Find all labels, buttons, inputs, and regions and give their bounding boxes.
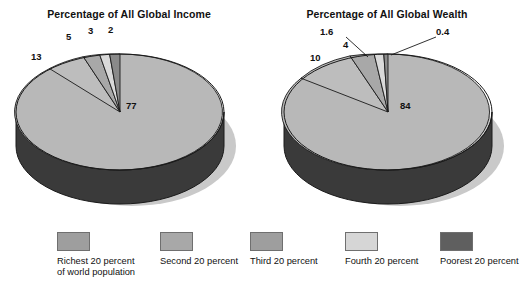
pie-wealth-svg xyxy=(258,24,516,232)
slice-label-fourth: 1.6 xyxy=(320,26,333,37)
slice-label-third: 4 xyxy=(343,39,348,50)
slice-label-fourth: 3 xyxy=(88,25,93,36)
chart-legend: Richest 20 percent of world population S… xyxy=(0,232,516,297)
slice-label-poorest: 0.4 xyxy=(436,26,449,37)
legend-item-second: Second 20 percent xyxy=(160,232,255,267)
chart-title-income: Percentage of All Global Income xyxy=(0,8,258,20)
pie-wealth: 84 10 4 1.6 0.4 xyxy=(258,24,516,232)
legend-swatch-fourth xyxy=(345,232,378,251)
leader-line-poorest xyxy=(391,37,436,55)
slice-label-poorest: 2 xyxy=(108,24,113,35)
chart-title-wealth: Percentage of All Global Wealth xyxy=(258,8,516,20)
legend-swatch-richest xyxy=(57,232,90,251)
legend-label-second: Second 20 percent xyxy=(160,256,255,267)
charts-container: Percentage of All Global Income xyxy=(0,0,516,232)
legend-label-poorest: Poorest 20 percent xyxy=(440,256,524,267)
slice-label-second: 13 xyxy=(31,51,42,62)
legend-swatch-third xyxy=(250,232,283,251)
slice-label-second: 10 xyxy=(310,52,321,63)
legend-swatch-poorest xyxy=(440,232,473,251)
slice-label-richest: 77 xyxy=(126,100,137,111)
legend-item-third: Third 20 percent xyxy=(250,232,340,267)
pie-income: 77 13 5 3 2 xyxy=(0,24,258,232)
legend-swatch-second xyxy=(160,232,193,251)
slice-label-richest: 84 xyxy=(400,100,411,111)
legend-label-fourth: Fourth 20 percent xyxy=(345,256,437,267)
chart-panel-wealth: Percentage of All Global Wealth xyxy=(258,0,516,232)
legend-item-richest: Richest 20 percent of world population xyxy=(57,232,157,277)
legend-item-poorest: Poorest 20 percent xyxy=(440,232,524,267)
chart-panel-income: Percentage of All Global Income xyxy=(0,0,258,232)
leader-line-fourth xyxy=(346,37,368,57)
legend-label-third: Third 20 percent xyxy=(250,256,340,267)
legend-label-richest: Richest 20 percent of world population xyxy=(57,256,157,277)
slice-label-third: 5 xyxy=(66,31,71,42)
legend-item-fourth: Fourth 20 percent xyxy=(345,232,437,267)
